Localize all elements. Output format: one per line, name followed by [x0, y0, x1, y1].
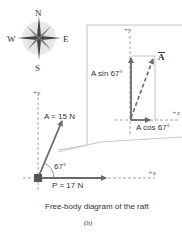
compass-s-label: S	[35, 64, 40, 73]
compass-w-label: W	[7, 35, 16, 44]
callout-box	[58, 25, 182, 152]
inset-x-axis-label: +x	[172, 110, 180, 117]
main-y-axis-label: +y	[33, 90, 40, 97]
raft-point-icon	[34, 174, 42, 182]
inset-diagram	[115, 36, 178, 135]
inset-sin-component-label: A sin 67°	[91, 70, 123, 78]
compass-n-label: N	[35, 9, 42, 18]
main-x-axis-label: +x	[148, 170, 156, 177]
vector-p-label: P = 17 N	[52, 182, 83, 190]
angle-label: 67°	[54, 163, 66, 171]
compass-rose-icon	[17, 16, 61, 60]
compass-e-label: E	[63, 35, 69, 44]
diagram-canvas	[0, 0, 182, 232]
figure-caption: Free-body diagram of the raft	[45, 203, 149, 211]
vector-a-label: A = 15 N	[44, 113, 75, 121]
part-label: (b)	[84, 220, 92, 227]
inset-y-axis-label: +y	[124, 27, 131, 34]
inset-vector-a-label: A	[158, 52, 165, 62]
inset-cos-component-label: A cos 67°	[136, 124, 170, 132]
